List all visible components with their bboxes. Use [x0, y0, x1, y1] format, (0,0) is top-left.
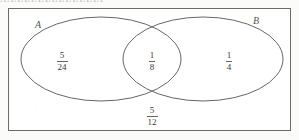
- fraction-bar: [149, 61, 156, 62]
- fraction-1-8: 1 8: [149, 50, 156, 72]
- region-value-b-only: 1 4: [214, 50, 244, 72]
- venn-diagram-screenshot: AAAAAAAAAAAAAAA A B 5 24 1 8 1 4: [0, 0, 299, 140]
- region-value-intersection: 1 8: [137, 50, 167, 72]
- fraction-numerator: 5: [57, 50, 68, 60]
- fraction-denominator: 24: [57, 62, 68, 72]
- fraction-numerator: 1: [226, 50, 233, 60]
- fraction-bar: [57, 61, 68, 62]
- fraction-denominator: 8: [149, 62, 156, 72]
- set-label-b: B: [249, 16, 263, 26]
- fraction-5-12: 5 12: [147, 105, 158, 127]
- fraction-denominator: 12: [147, 117, 158, 127]
- set-label-a: A: [31, 20, 45, 30]
- fraction-denominator: 4: [226, 62, 233, 72]
- fraction-numerator: 5: [147, 105, 158, 115]
- fraction-1-4: 1 4: [226, 50, 233, 72]
- fraction-5-24: 5 24: [57, 50, 68, 72]
- fraction-bar: [226, 61, 233, 62]
- fraction-bar: [147, 116, 158, 117]
- region-value-a-only: 5 24: [47, 50, 77, 72]
- fraction-numerator: 1: [149, 50, 156, 60]
- region-value-outside: 5 12: [137, 105, 167, 127]
